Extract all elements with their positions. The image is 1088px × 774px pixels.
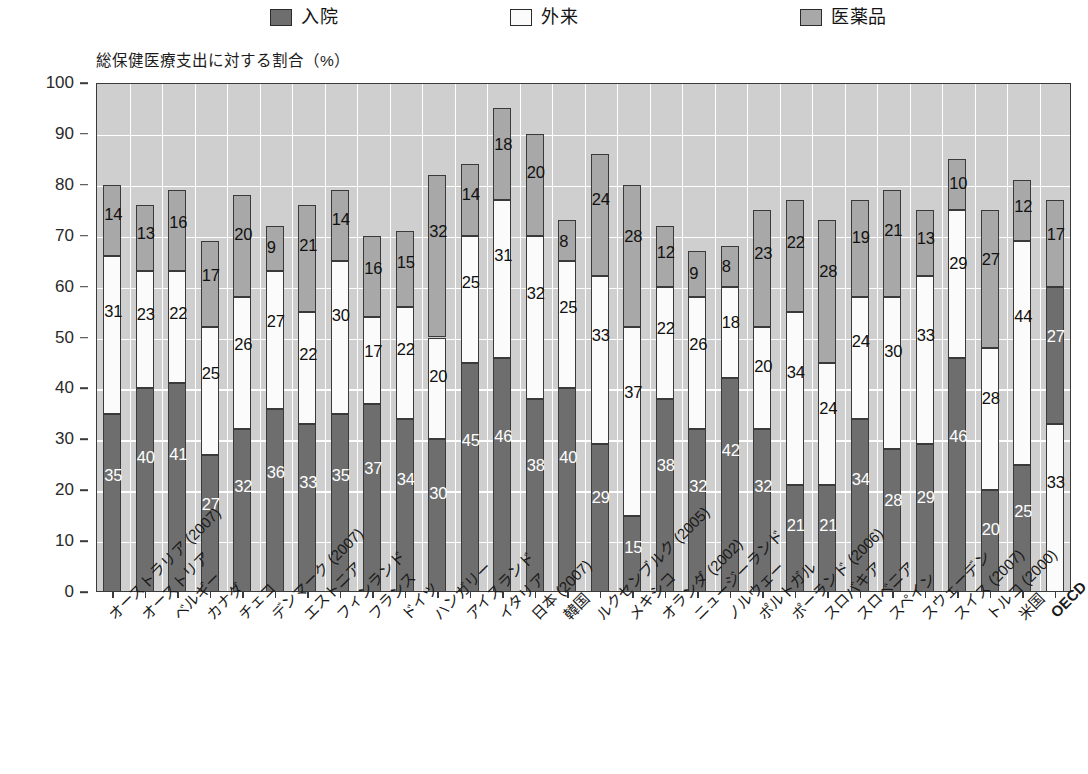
x-tick-mark xyxy=(372,592,374,598)
x-axis-category-label: ベルギー xyxy=(168,609,183,624)
x-tick-mark xyxy=(307,592,309,598)
gridline-vertical xyxy=(520,84,521,591)
gridline-vertical xyxy=(455,84,456,591)
y-axis-title: 総保健医療支出に対する割合（%） xyxy=(96,48,350,70)
legend-label-outpatient: 外来 xyxy=(541,8,578,26)
x-tick-mark xyxy=(860,592,862,598)
chart-legend: 入院 外来 医薬品 xyxy=(0,8,1088,40)
gridline-vertical xyxy=(390,84,391,591)
gridline-vertical xyxy=(942,84,943,591)
x-axis-category-label: ポルトガル xyxy=(753,609,768,624)
x-axis-category-label: ドイツ xyxy=(395,609,410,624)
y-tick-mark xyxy=(80,133,88,135)
y-tick-mark xyxy=(80,439,88,441)
x-tick-mark xyxy=(535,592,537,598)
x-axis-ticks xyxy=(96,592,1071,599)
x-axis-category-label: OECD xyxy=(1047,608,1059,620)
x-tick-mark xyxy=(275,592,277,598)
plot-area xyxy=(96,83,1071,592)
gridline-horizontal xyxy=(97,135,1070,136)
x-tick-mark xyxy=(600,592,602,598)
y-tick-label: 30 xyxy=(55,429,74,449)
x-tick-mark xyxy=(925,592,927,598)
y-axis: 0102030405060708090100 xyxy=(0,83,88,592)
x-axis-category-label: トルコ (2000) xyxy=(980,609,995,624)
y-tick-label: 20 xyxy=(55,480,74,500)
gridline-vertical xyxy=(682,84,683,591)
y-tick-label: 0 xyxy=(65,582,74,602)
x-axis-category-label: ポーランド (2006) xyxy=(785,609,800,624)
x-axis-category-label: 日本 (2007) xyxy=(525,609,540,624)
y-tick-label: 90 xyxy=(55,124,74,144)
x-tick-mark xyxy=(762,592,764,598)
y-tick-mark xyxy=(80,489,88,491)
legend-label-inpatient: 入院 xyxy=(301,8,338,26)
legend-swatch-pharmaceutical-icon xyxy=(800,9,822,26)
gridline-vertical xyxy=(195,84,196,591)
x-tick-mark xyxy=(470,592,472,598)
gridline-horizontal xyxy=(97,288,1070,289)
x-tick-mark xyxy=(697,592,699,598)
x-tick-mark xyxy=(112,592,114,598)
gridline-vertical xyxy=(357,84,358,591)
legend-item-pharmaceutical: 医薬品 xyxy=(800,8,887,26)
legend-item-inpatient: 入院 xyxy=(270,8,338,26)
x-axis-category-label: フィンランド xyxy=(330,609,345,624)
gridline-vertical xyxy=(845,84,846,591)
y-tick-mark xyxy=(80,184,88,186)
x-axis-category-label: デンマーク (2007) xyxy=(265,609,280,624)
y-tick-label: 80 xyxy=(55,175,74,195)
gridline-vertical xyxy=(422,84,423,591)
x-tick-mark xyxy=(795,592,797,598)
x-axis-category-label: オーストリア xyxy=(135,609,150,624)
gridline-vertical xyxy=(910,84,911,591)
gridline-vertical xyxy=(162,84,163,591)
y-tick-mark xyxy=(80,540,88,542)
y-tick-mark xyxy=(80,337,88,339)
x-axis-category-label: スロベニア xyxy=(850,609,865,624)
x-tick-mark xyxy=(665,592,667,598)
gridline-horizontal xyxy=(97,440,1070,441)
x-tick-mark xyxy=(990,592,992,598)
gridline-vertical xyxy=(260,84,261,591)
y-tick-label: 40 xyxy=(55,378,74,398)
x-axis-category-label: エストニア xyxy=(298,609,313,624)
gridline-horizontal xyxy=(97,339,1070,340)
gridline-vertical xyxy=(292,84,293,591)
gridline-vertical xyxy=(325,84,326,591)
x-axis-category-label: メキシコ xyxy=(623,609,638,624)
y-tick-label: 60 xyxy=(55,277,74,297)
x-axis-category-label: ニュージーランド xyxy=(688,609,703,624)
x-axis-category-label: ハンガリー xyxy=(428,609,443,624)
x-axis-category-label: ルクセンブルク (2005) xyxy=(590,609,605,624)
gridline-vertical xyxy=(617,84,618,591)
x-axis-category-label: フランス xyxy=(363,609,378,624)
legend-label-pharmaceutical: 医薬品 xyxy=(831,8,887,26)
y-tick-label: 70 xyxy=(55,226,74,246)
legend-swatch-outpatient-icon xyxy=(510,9,532,26)
gridline-vertical xyxy=(747,84,748,591)
gridline-vertical xyxy=(1040,84,1041,591)
x-tick-mark xyxy=(827,592,829,598)
y-tick-mark xyxy=(80,235,88,237)
gridline-horizontal xyxy=(97,389,1070,390)
y-tick-label: 10 xyxy=(55,531,74,551)
legend-swatch-inpatient-icon xyxy=(270,9,292,26)
x-tick-mark xyxy=(892,592,894,598)
x-axis-category-label: スイス (2007) xyxy=(948,609,963,624)
gridline-vertical xyxy=(975,84,976,591)
x-tick-mark xyxy=(632,592,634,598)
x-tick-mark xyxy=(957,592,959,598)
y-tick-mark xyxy=(80,82,88,84)
gridline-vertical xyxy=(130,84,131,591)
gridline-vertical xyxy=(585,84,586,591)
x-tick-mark xyxy=(145,592,147,598)
x-axis-category-label: ノルウェー xyxy=(720,609,735,624)
x-axis-category-label: オーストラリア (2007) xyxy=(103,609,118,624)
x-tick-mark xyxy=(210,592,212,598)
legend-item-outpatient: 外来 xyxy=(510,8,578,26)
x-tick-mark xyxy=(405,592,407,598)
x-tick-mark xyxy=(567,592,569,598)
gridline-horizontal xyxy=(97,542,1070,543)
x-axis-category-label: スウェーデン xyxy=(915,609,930,624)
